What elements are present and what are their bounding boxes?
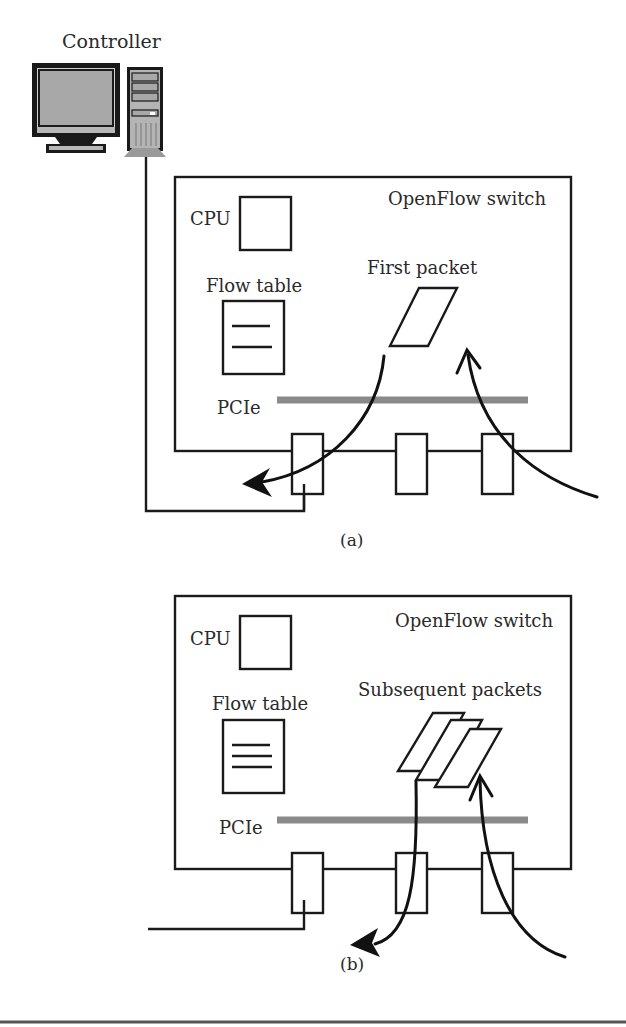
controller-label: Controller [62, 30, 162, 52]
cpu-label: CPU [190, 208, 231, 229]
pcie-label: PCIe [219, 817, 263, 838]
flow-table-label: Flow table [206, 275, 302, 296]
packet-label: Subsequent packets [358, 679, 542, 700]
switch-label: OpenFlow switch [388, 188, 546, 209]
packet-label: First packet [367, 257, 478, 278]
cpu-box [240, 616, 291, 669]
cpu-box [240, 197, 291, 250]
monitor-icon [32, 63, 120, 153]
port-1 [292, 853, 323, 913]
port-2 [396, 434, 427, 494]
to-controller-arrowhead-icon [242, 468, 272, 497]
cpu-label: CPU [190, 628, 231, 649]
flow-table-label: Flow table [212, 693, 308, 714]
caption-a: (a) [340, 530, 363, 550]
flow-table-box [223, 301, 284, 374]
panel-a: OpenFlow switch CPU Flow table First pac… [175, 177, 597, 550]
caption-b: (b) [340, 954, 364, 974]
controller-cable [148, 900, 304, 929]
port-1 [292, 434, 323, 494]
openflow-diagram: Controller [0, 0, 626, 1027]
tower-icon [124, 67, 166, 157]
switch-label: OpenFlow switch [395, 610, 553, 631]
controller: Controller [32, 30, 166, 157]
panel-b: OpenFlow switch CPU Flow table Subsequen… [148, 596, 571, 974]
pcie-label: PCIe [217, 397, 261, 418]
